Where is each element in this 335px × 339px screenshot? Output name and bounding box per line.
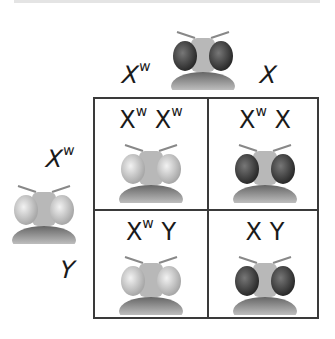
top-allele-label-2: X — [259, 62, 277, 87]
fly-head-red-eyes-icon — [169, 28, 237, 90]
offspring-genotype: Xw X — [209, 107, 321, 132]
offspring-cell-2: Xw X — [209, 99, 321, 209]
top-allele-label-1: Xw — [121, 62, 151, 87]
offspring-genotype: Xw Xw — [95, 107, 207, 132]
top-divider — [14, 0, 320, 3]
offspring-cell-3: Xw Y — [95, 211, 207, 321]
fly-head-red-eyes-icon — [231, 141, 299, 203]
offspring-genotype: Xw Y — [95, 219, 207, 244]
punnett-grid: Xw Xw Xw X Xw Y — [93, 97, 319, 319]
fly-head-white-eyes-icon — [117, 253, 185, 315]
left-allele-label-1: Xw — [45, 146, 75, 171]
fly-head-white-eyes-icon — [117, 141, 185, 203]
offspring-fly-image — [231, 253, 299, 315]
fly-head-red-eyes-icon — [231, 253, 299, 315]
fly-head-white-eyes-icon — [10, 182, 78, 244]
parent-left-fly-image — [10, 182, 78, 244]
parent-top-fly-image — [169, 28, 237, 90]
offspring-fly-image — [117, 253, 185, 315]
offspring-cell-1: Xw Xw — [95, 99, 207, 209]
offspring-fly-image — [231, 141, 299, 203]
offspring-fly-image — [117, 141, 185, 203]
left-allele-label-2: Y — [59, 257, 75, 282]
offspring-genotype: X Y — [209, 219, 321, 244]
offspring-cell-4: X Y — [209, 211, 321, 321]
